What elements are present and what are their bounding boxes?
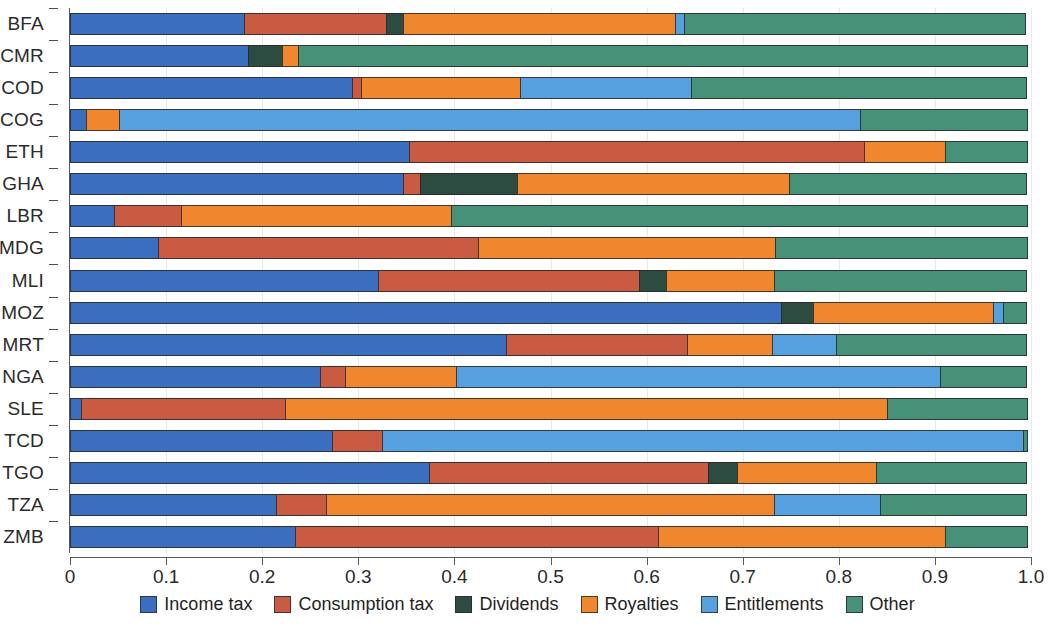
bar-segment xyxy=(326,494,776,516)
y-axis-label: TZA xyxy=(8,494,45,516)
bar-segment xyxy=(378,270,639,292)
bar-segment xyxy=(70,173,404,195)
x-axis-tick-label: 0.5 xyxy=(537,566,563,588)
bar-segment xyxy=(520,77,692,99)
y-axis-label: MLI xyxy=(12,270,44,292)
y-axis-label: MRT xyxy=(3,334,44,356)
bar-segment xyxy=(332,430,383,452)
bar-segment xyxy=(248,45,284,67)
bar-segment xyxy=(666,270,776,292)
y-axis-tick xyxy=(49,489,58,490)
x-axis-tick xyxy=(70,557,71,565)
bar-segment xyxy=(876,462,1027,484)
bar-segment xyxy=(276,494,327,516)
bar-segment xyxy=(691,77,1027,99)
bar-segment xyxy=(361,77,521,99)
bar-segment xyxy=(244,13,387,35)
legend-item[interactable]: Entitlements xyxy=(701,594,824,615)
bar-segment xyxy=(70,205,115,227)
bar-segment xyxy=(774,270,1027,292)
legend-item[interactable]: Royalties xyxy=(581,594,679,615)
bar-segment xyxy=(1003,302,1027,324)
bar-segment xyxy=(70,302,782,324)
y-axis-tick xyxy=(49,200,58,201)
y-axis-label: TGO xyxy=(2,462,44,484)
y-axis-tick xyxy=(49,104,58,105)
bar-segment xyxy=(772,334,836,356)
bar-segment xyxy=(639,270,667,292)
bar-segment xyxy=(684,13,1026,35)
bar-segment xyxy=(70,45,249,67)
legend-swatch-icon xyxy=(140,596,157,613)
x-axis-tick xyxy=(647,557,648,565)
legend-item[interactable]: Other xyxy=(846,594,915,615)
x-axis-tick-label: 1.0 xyxy=(1018,566,1044,588)
plot-area xyxy=(70,8,1031,553)
bar-row xyxy=(70,205,1031,227)
bar-segment xyxy=(70,13,245,35)
bar-segment xyxy=(517,173,790,195)
bar-segment xyxy=(887,398,1028,420)
x-axis-tick xyxy=(262,557,263,565)
bar-segment xyxy=(70,430,333,452)
y-axis-label: ZMB xyxy=(3,526,44,548)
x-axis-tick-label: 0.3 xyxy=(345,566,371,588)
bar-segment xyxy=(282,45,298,67)
bar-row xyxy=(70,366,1031,388)
x-axis-tick xyxy=(839,557,840,565)
bar-segment xyxy=(1023,430,1028,452)
bar-segment xyxy=(880,494,1027,516)
bar-row xyxy=(70,494,1031,516)
y-axis-label: COG xyxy=(0,109,44,131)
x-axis-tick xyxy=(551,557,552,565)
bar-row xyxy=(70,462,1031,484)
bar-segment xyxy=(775,237,1028,259)
x-axis-tick-label: 0 xyxy=(65,566,76,588)
bar-segment xyxy=(285,398,888,420)
bar-row xyxy=(70,77,1031,99)
bar-segment xyxy=(114,205,182,227)
bar-segment xyxy=(813,302,995,324)
legend-label: Entitlements xyxy=(725,594,824,615)
y-axis-tick xyxy=(49,72,58,73)
y-axis-tick xyxy=(49,297,58,298)
y-axis-tick xyxy=(49,232,58,233)
legend-item[interactable]: Consumption tax xyxy=(274,594,433,615)
bar-row xyxy=(70,237,1031,259)
bar-row xyxy=(70,173,1031,195)
x-axis-tick-label: 0.4 xyxy=(441,566,467,588)
bar-row xyxy=(70,13,1031,35)
legend-item[interactable]: Income tax xyxy=(140,594,252,615)
y-axis-label: NGA xyxy=(2,366,44,388)
bar-row xyxy=(70,302,1031,324)
bar-row xyxy=(70,45,1031,67)
bar-segment xyxy=(295,526,659,548)
bar-segment xyxy=(403,173,420,195)
x-axis-tick-label: 0.6 xyxy=(633,566,659,588)
bar-segment xyxy=(382,430,1024,452)
legend-label: Dividends xyxy=(479,594,558,615)
bar-segment xyxy=(658,526,946,548)
x-axis-tick xyxy=(935,557,936,565)
y-axis-tick xyxy=(49,521,58,522)
bar-segment xyxy=(345,366,457,388)
bar-row xyxy=(70,430,1031,452)
y-axis-label: CMR xyxy=(0,45,44,67)
bar-segment xyxy=(70,109,87,131)
bar-row xyxy=(70,398,1031,420)
bar-row xyxy=(70,334,1031,356)
bar-segment xyxy=(836,334,1027,356)
x-axis-tick-label: 0.2 xyxy=(249,566,275,588)
bar-row xyxy=(70,141,1031,163)
bar-segment xyxy=(864,141,947,163)
y-axis-label: MDG xyxy=(0,237,44,259)
bar-segment xyxy=(940,366,1027,388)
y-axis-tick xyxy=(49,40,58,41)
bar-segment xyxy=(298,45,1028,67)
x-axis-tick-label: 0.7 xyxy=(729,566,755,588)
bar-segment xyxy=(420,173,518,195)
legend-item[interactable]: Dividends xyxy=(455,594,558,615)
x-axis-tick-label: 0.1 xyxy=(153,566,179,588)
bar-segment xyxy=(70,141,410,163)
legend-swatch-icon xyxy=(274,596,291,613)
